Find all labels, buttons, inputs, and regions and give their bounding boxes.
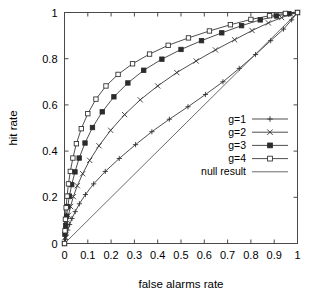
x-tick-label: 0.4 xyxy=(150,249,165,261)
y-axis-tick-labels: 00.20.40.60.81 xyxy=(42,7,57,250)
y-tick-label: 0 xyxy=(51,238,57,250)
legend-label-null-result: null result xyxy=(201,165,246,177)
x-axis-tick-labels: 00.10.20.30.40.50.60.70.80.91 xyxy=(61,249,300,261)
x-tick-label: 0.9 xyxy=(267,249,282,261)
x-tick-label: 0.7 xyxy=(220,249,235,261)
chart-legend: g=1g=2g=3g=4null result xyxy=(201,113,288,178)
x-tick-label: 0.1 xyxy=(80,249,95,261)
y-tick-label: 0.2 xyxy=(42,191,57,203)
y-tick-label: 0.4 xyxy=(42,145,57,157)
x-tick-label: 0 xyxy=(61,249,67,261)
legend-label-g-1: g=1 xyxy=(228,113,246,125)
x-tick-label: 0.5 xyxy=(173,249,188,261)
y-tick-label: 0.8 xyxy=(42,53,57,65)
x-tick-label: 0.2 xyxy=(103,249,118,261)
y-axis-title: hit rate xyxy=(7,110,19,145)
x-tick-label: 0.6 xyxy=(197,249,212,261)
y-tick-label: 1 xyxy=(51,7,57,19)
legend-label-g-2: g=2 xyxy=(228,126,246,138)
legend-label-g-4: g=4 xyxy=(228,152,246,164)
x-axis-title: false alarms rate xyxy=(138,278,223,290)
roc-chart-figure: 00.10.20.30.40.50.60.70.80.91 00.20.40.6… xyxy=(0,0,318,297)
legend-marker-plus xyxy=(267,116,273,122)
y-tick-label: 0.6 xyxy=(42,99,57,111)
legend-marker-open-square xyxy=(268,156,273,161)
x-tick-label: 1 xyxy=(294,249,300,261)
x-tick-label: 0.8 xyxy=(243,249,258,261)
chart-canvas: 00.10.20.30.40.50.60.70.80.91 00.20.40.6… xyxy=(0,0,318,297)
legend-marker-filled-square xyxy=(268,143,273,148)
x-tick-label: 0.3 xyxy=(127,249,142,261)
legend-label-g-3: g=3 xyxy=(228,139,246,151)
